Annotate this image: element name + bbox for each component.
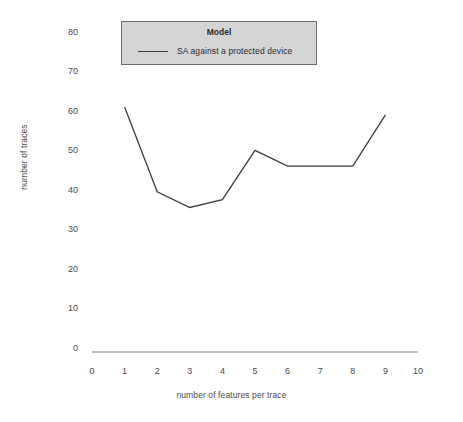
legend: Model SA against a protected device	[121, 21, 317, 65]
series-line-sa-against-a-protected-device	[125, 107, 386, 208]
legend-title: Model	[122, 27, 316, 37]
legend-entry: SA against a protected device	[122, 46, 316, 56]
legend-line-swatch-icon	[138, 51, 168, 52]
x-axis-title: number of features per trace	[0, 390, 463, 400]
legend-entry-label: SA against a protected device	[177, 46, 292, 56]
chart-figure: number of traces 01020304050607080 01234…	[0, 0, 463, 422]
